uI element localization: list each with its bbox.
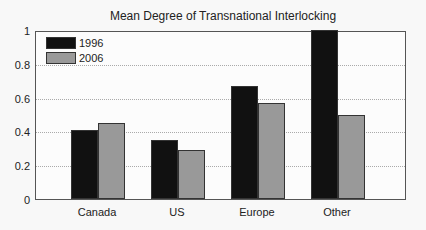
y-tick-label: 0: [0, 194, 30, 206]
y-tick-label: 0.2: [0, 160, 30, 172]
legend: 19962006: [46, 36, 103, 66]
bar-europe-2006: [258, 103, 285, 199]
x-tick-label: Canada: [57, 206, 137, 218]
legend-swatch: [46, 37, 76, 49]
legend-label: 2006: [79, 52, 103, 64]
bar-other-1996: [311, 30, 338, 199]
y-tick-label: 0.6: [0, 93, 30, 105]
x-tick-label: US: [137, 206, 217, 218]
bar-canada-2006: [98, 123, 125, 199]
bar-us-1996: [151, 140, 178, 199]
legend-item: 1996: [46, 36, 103, 50]
legend-swatch: [46, 52, 76, 64]
y-tick-label: 0.4: [0, 126, 30, 138]
gridline: [36, 99, 405, 100]
y-tick-label: 0.8: [0, 59, 30, 71]
bar-europe-1996: [231, 86, 258, 199]
bar-us-2006: [178, 150, 205, 199]
x-tick-label: Europe: [217, 206, 297, 218]
bar-canada-1996: [71, 130, 98, 199]
legend-label: 1996: [79, 37, 103, 49]
bar-other-2006: [338, 115, 365, 200]
y-tick-label: 1: [0, 25, 30, 37]
chart-title: Mean Degree of Transnational Interlockin…: [0, 9, 426, 23]
legend-item: 2006: [46, 51, 103, 65]
x-tick-label: Other: [297, 206, 377, 218]
